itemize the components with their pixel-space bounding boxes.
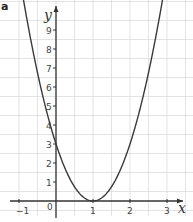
y-tick-label: 8 <box>46 45 52 55</box>
x-axis-label: x <box>178 200 186 216</box>
x-tick-label: 1 <box>90 206 96 216</box>
y-tick-label: 7 <box>46 64 52 74</box>
y-tick-label: 6 <box>46 83 52 93</box>
y-axis-arrow-icon <box>54 6 59 12</box>
x-tick-label: −1 <box>16 206 29 216</box>
part-label: a <box>1 0 8 13</box>
y-tick-label: 9 <box>46 26 52 36</box>
y-tick-label: 2 <box>46 159 52 169</box>
x-tick-label: 2 <box>127 206 133 216</box>
x-tick-label: 0 <box>47 202 53 212</box>
parabola-chart: −10123123456789 a y x <box>0 0 193 222</box>
y-tick-label: 1 <box>46 178 52 188</box>
axes <box>10 6 183 218</box>
x-tick-label: 3 <box>164 206 170 216</box>
y-axis-label: y <box>43 7 53 23</box>
y-tick-label: 3 <box>46 140 52 150</box>
